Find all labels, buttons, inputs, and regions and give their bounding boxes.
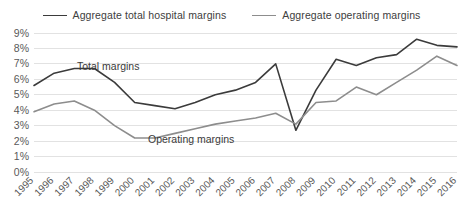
x-axis-tick-label: 1995 (12, 174, 36, 198)
y-axis-tick-label: 6% (14, 73, 29, 85)
x-axis-ticks: 1995199619971998199920002001200220032004… (12, 174, 459, 198)
x-axis-tick-label: 2004 (193, 174, 217, 198)
x-axis-tick-label: 2012 (354, 174, 378, 198)
x-axis-tick-label: 2007 (254, 174, 278, 198)
legend-item-operating: Aggregate operating margins (252, 9, 420, 21)
x-axis-tick-label: 1997 (52, 174, 76, 198)
y-axis-tick-label: 4% (14, 104, 29, 116)
legend-item-total: Aggregate total hospital margins (43, 9, 227, 21)
legend-line-swatch-operating (252, 15, 276, 16)
x-axis-tick-label: 2016 (435, 174, 459, 198)
x-axis-tick-label: 1999 (92, 174, 116, 198)
y-axis-ticks: 0%1%2%3%4%5%6%7%8%9% (14, 27, 29, 178)
y-axis-tick-label: 1% (14, 150, 29, 162)
legend-label-total: Aggregate total hospital margins (73, 9, 227, 21)
x-axis-tick-label: 2015 (415, 174, 439, 198)
x-axis-tick-label: 2014 (395, 174, 419, 198)
y-axis-tick-label: 7% (14, 57, 29, 69)
margins-line-chart: Aggregate total hospital margins Aggrega… (0, 0, 463, 219)
annotation-total-margins: Total margins (77, 60, 139, 72)
y-axis-tick-label: 9% (14, 27, 29, 39)
y-axis-tick-label: 3% (14, 119, 29, 131)
x-axis-tick-label: 2002 (153, 174, 177, 198)
x-axis-tick-label: 1996 (32, 174, 56, 198)
legend-line-swatch-total (43, 15, 67, 16)
y-axis-tick-label: 5% (14, 88, 29, 100)
x-axis-tick-label: 2009 (294, 174, 318, 198)
y-axis-tick-label: 2% (14, 135, 29, 147)
legend-label-operating: Aggregate operating margins (282, 9, 420, 21)
x-axis-tick-label: 2003 (173, 174, 197, 198)
x-axis-tick-label: 2005 (213, 174, 237, 198)
x-axis-tick-label: 2010 (314, 174, 338, 198)
x-axis-tick-label: 2008 (274, 174, 298, 198)
x-axis-tick-label: 2000 (113, 174, 137, 198)
chart-canvas: 0%1%2%3%4%5%6%7%8%9% 1995199619971998199… (0, 22, 463, 219)
x-axis-tick-label: 2001 (133, 174, 157, 198)
x-axis-tick-label: 2006 (233, 174, 257, 198)
x-axis-tick-label: 1998 (72, 174, 96, 198)
y-axis-tick-label: 8% (14, 42, 29, 54)
x-axis-tick-label: 2011 (335, 174, 358, 197)
x-axis-tick-label: 2013 (374, 174, 398, 198)
annotation-operating-margins: Operating margins (148, 133, 234, 145)
plot-area: 0%1%2%3%4%5%6%7%8%9% 1995199619971998199… (0, 22, 463, 219)
gridlines (34, 33, 457, 172)
